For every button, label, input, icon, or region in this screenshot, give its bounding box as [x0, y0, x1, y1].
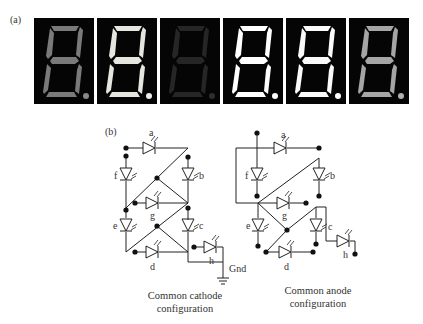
common-anode-caption: Common anode configuration	[263, 284, 373, 310]
diode-e-icon	[120, 219, 137, 231]
common-anode-circuit	[236, 133, 355, 258]
panel-b-label: (b)	[105, 126, 117, 138]
svg-text:b: b	[330, 170, 335, 181]
svg-text:a: a	[281, 129, 286, 140]
diode-g-icon	[146, 191, 161, 209]
svg-text:a: a	[149, 127, 154, 138]
svg-text:c: c	[328, 221, 333, 232]
diode-a-icon	[143, 136, 158, 154]
anode-segment-labels: a b c d e f g h	[245, 129, 348, 272]
svg-text:e: e	[246, 220, 251, 231]
svg-text:e: e	[113, 220, 118, 231]
svg-text:f: f	[114, 170, 118, 181]
svg-text:h: h	[343, 249, 348, 260]
svg-text:d: d	[150, 261, 155, 272]
diode-f-icon	[251, 168, 268, 180]
diode-g-icon	[277, 191, 292, 209]
svg-text:h: h	[209, 255, 214, 266]
diode-d-icon	[279, 240, 294, 258]
diode-e-icon	[252, 219, 269, 231]
svg-text:b: b	[199, 170, 204, 181]
diode-h-icon	[204, 235, 219, 253]
diode-h-icon	[337, 229, 352, 247]
circuit-diagrams: (b)	[0, 0, 423, 324]
common-cathode-caption: Common cathode configuration	[125, 289, 245, 315]
svg-text:c: c	[199, 220, 204, 231]
gnd-label: Gnd	[229, 263, 246, 274]
diode-b-icon	[313, 168, 330, 180]
svg-text:f: f	[245, 170, 249, 181]
diode-b-icon	[182, 168, 199, 180]
svg-text:d: d	[284, 261, 289, 272]
diode-c-icon	[182, 219, 199, 231]
svg-text:g: g	[150, 210, 155, 221]
diode-f-icon	[120, 168, 137, 180]
svg-text:g: g	[282, 210, 287, 221]
diode-c-icon	[310, 219, 327, 231]
diode-d-icon	[146, 240, 161, 258]
